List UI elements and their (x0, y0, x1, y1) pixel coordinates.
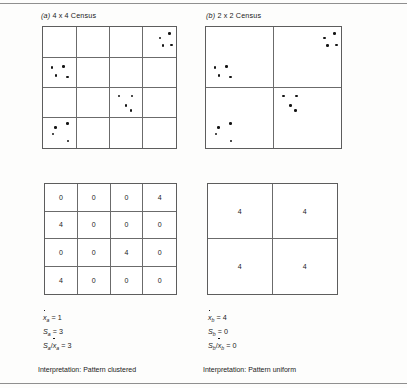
data-point (55, 74, 58, 77)
stat-ratio-variance-subscript: b (213, 345, 216, 351)
data-point (162, 44, 165, 47)
count-cell: 4 (45, 267, 78, 295)
stat-mean-subscript: a (47, 317, 50, 323)
stat-variance-subscript: b (213, 331, 216, 337)
gridline-horizontal (43, 87, 176, 88)
stat-variance: Sb = 0 (208, 325, 236, 339)
panel-a-statistics: xa = 1 Sa = 3 Sa/xa = 3 (43, 311, 71, 353)
count-cell: 0 (143, 212, 176, 240)
data-point (289, 104, 292, 107)
stat-variance-value: 0 (224, 327, 228, 336)
data-point (295, 95, 298, 98)
data-point (52, 133, 55, 136)
panel-b-dot-map (205, 26, 342, 149)
panel-b-label: (b) 2 x 2 Census (206, 11, 261, 20)
count-cell: 4 (273, 184, 338, 239)
data-point (333, 32, 336, 35)
stat-mean: xb = 4 (208, 311, 236, 325)
stat-ratio: Sb/xb = 0 (208, 339, 236, 353)
panel-b-statistics: xb = 4 Sb = 0 Sb/xb = 0 (208, 311, 236, 353)
count-cell: 0 (78, 239, 111, 267)
panel-b-interpretation: Interpretation: Pattern uniform (203, 366, 296, 373)
stat-ratio-value: 3 (67, 341, 71, 350)
data-point (217, 126, 220, 129)
stat-ratio-mean-subscript: a (56, 345, 59, 351)
data-point (67, 140, 70, 143)
data-point (229, 76, 232, 79)
count-cell: 0 (78, 267, 111, 295)
data-point (225, 65, 228, 68)
gridline-horizontal (43, 117, 176, 118)
data-point (214, 66, 217, 69)
count-cell: 0 (78, 212, 111, 240)
data-point (168, 32, 171, 35)
panel-a-dot-map (42, 26, 177, 149)
data-point (229, 122, 232, 125)
count-cell: 0 (45, 184, 78, 212)
figure-container: (a) 4 x 4 Census (0, 0, 407, 388)
count-cell: 4 (208, 184, 273, 239)
data-point (62, 65, 65, 68)
data-point (170, 44, 173, 47)
panel-a-label-index: (a) (41, 11, 50, 20)
data-point (66, 76, 69, 79)
count-cell: 0 (143, 267, 176, 295)
count-cell: 4 (208, 239, 273, 294)
data-point (230, 140, 233, 143)
data-point (282, 95, 285, 98)
panel-a-count-matrix: 0 0 0 4 4 0 0 0 0 0 4 0 4 0 0 0 (44, 183, 177, 295)
count-cell: 4 (143, 184, 176, 212)
count-cell: 0 (111, 212, 144, 240)
data-point (218, 74, 221, 77)
stat-mean: xa = 1 (43, 311, 71, 325)
panel-b-interpretation-value: Pattern uniform (248, 366, 296, 373)
stat-variance-subscript: a (48, 331, 51, 337)
panel-b: (b) 2 x 2 Census (198, 0, 378, 388)
panel-a-label: (a) 4 x 4 Census (41, 11, 96, 20)
stat-mean-value: 4 (223, 313, 227, 322)
data-point (159, 37, 162, 40)
count-cell: 0 (45, 239, 78, 267)
data-point (54, 126, 57, 129)
gridline-horizontal (43, 57, 176, 58)
count-cell: 4 (45, 212, 78, 240)
stat-ratio-value: 0 (232, 341, 236, 350)
count-cell: 0 (78, 184, 111, 212)
data-point (131, 95, 134, 98)
data-point (125, 104, 128, 107)
data-point (323, 37, 326, 40)
panel-a-interpretation: Interpretation: Pattern clustered (38, 366, 136, 373)
panel-a: (a) 4 x 4 Census (33, 0, 213, 388)
panel-b-label-index: (b) (206, 11, 215, 20)
data-point (66, 122, 69, 125)
data-point (215, 133, 218, 136)
panel-a-label-text: 4 x 4 Census (52, 11, 96, 20)
stat-ratio-mean-subscript: b (221, 345, 224, 351)
stat-ratio: Sa/xa = 3 (43, 339, 71, 353)
panel-b-interpretation-label: Interpretation: (203, 366, 246, 373)
count-cell: 0 (143, 239, 176, 267)
panel-b-label-text: 2 x 2 Census (217, 11, 261, 20)
stat-ratio-variance-subscript: a (48, 345, 51, 351)
panel-a-interpretation-value: Pattern clustered (83, 366, 136, 373)
count-cell: 4 (273, 239, 338, 294)
data-point (130, 109, 133, 112)
stat-variance-value: 3 (59, 327, 63, 336)
count-cell: 0 (111, 267, 144, 295)
data-point (51, 66, 54, 69)
data-point (294, 109, 297, 112)
panel-b-count-matrix: 4 4 4 4 (207, 183, 338, 295)
panel-a-interpretation-label: Interpretation: (38, 366, 81, 373)
gridline-horizontal (206, 87, 341, 88)
count-cell: 0 (111, 184, 144, 212)
data-point (326, 44, 329, 47)
stat-variance: Sa = 3 (43, 325, 71, 339)
stat-mean-subscript: b (212, 317, 215, 323)
data-point (118, 95, 121, 98)
data-point (335, 44, 338, 47)
stat-mean-value: 1 (58, 313, 62, 322)
count-cell: 4 (111, 239, 144, 267)
